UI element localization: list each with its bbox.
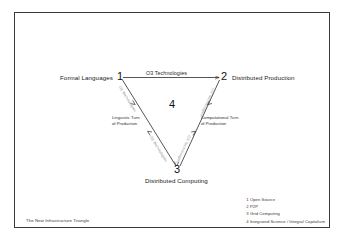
figure-page: 1 2 3 4 Formal Languages Distributed Pro… [0, 0, 347, 245]
vertex-number-3: 3 [174, 164, 180, 175]
annotation-computational-turn-line2: of Production [201, 121, 238, 127]
edge-label-top-o3-technologies: O3 Technologies [146, 70, 187, 76]
vertex-label-formal-languages: Formal Languages [60, 74, 113, 81]
legend: 1 Open Source 2 P2P 3 Grid Computing 4 I… [246, 196, 325, 225]
legend-item: 3 Grid Computing [246, 210, 325, 217]
figure-caption: The New Infrastructure Triangle [26, 218, 89, 223]
annotation-computational-turn: Computational Turn of Production [201, 115, 238, 127]
annotation-linguistic-turn-line2: of Production [112, 121, 140, 127]
legend-item: 1 Open Source [246, 196, 325, 203]
annotation-linguistic-turn: Linguistic Turn of Production [112, 115, 140, 127]
center-node-number-4: 4 [169, 99, 175, 110]
legend-item: 4 Integrated Science / Integral Capitali… [246, 218, 325, 225]
vertex-number-1: 1 [117, 71, 123, 82]
vertex-number-2: 2 [221, 71, 227, 82]
vertex-label-distributed-production: Distributed Production [232, 74, 295, 81]
vertex-label-distributed-computing: Distributed Computing [145, 177, 208, 184]
legend-item: 2 P2P [246, 203, 325, 210]
